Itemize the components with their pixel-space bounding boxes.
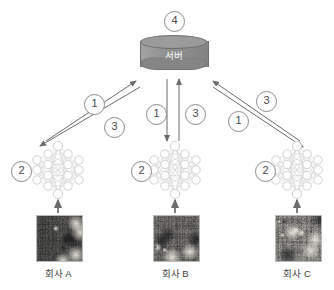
badge-left-step-3: 3 <box>104 117 125 138</box>
nn-node <box>64 150 72 158</box>
nn-node <box>192 176 200 184</box>
nn-node <box>53 189 62 198</box>
central-server[interactable]: 서버 <box>140 35 207 73</box>
nn-node <box>161 182 169 190</box>
nn-node <box>292 141 301 150</box>
badge-model-a-step-2: 2 <box>11 161 32 182</box>
company-c-image[interactable] <box>275 215 322 262</box>
photo-texture <box>154 216 199 261</box>
server-top-ellipse <box>140 35 207 49</box>
nn-node <box>303 171 311 179</box>
photo-texture <box>37 216 82 261</box>
nn-node <box>75 166 83 174</box>
nn-node <box>75 156 83 164</box>
federated-learning-diagram: 서버 4 1 3 1 3 3 1 2 2 2 회사 A 회사 B 회사 C <box>0 0 334 290</box>
nn-node <box>75 176 83 184</box>
nn-node <box>161 150 169 158</box>
nn-node <box>150 176 158 184</box>
nn-node <box>181 182 189 190</box>
company-a-image[interactable] <box>36 215 83 262</box>
nn-node <box>283 182 291 190</box>
badge-right-step-1: 1 <box>228 111 249 132</box>
nn-node <box>64 160 72 168</box>
nn-node <box>161 160 169 168</box>
nn-node <box>303 150 311 158</box>
nn-node <box>272 156 280 164</box>
nn-node <box>150 156 158 164</box>
nn-node <box>192 156 200 164</box>
nn-node <box>44 150 52 158</box>
nn-node <box>64 182 72 190</box>
company-b-label: 회사 B <box>130 266 220 280</box>
nn-node <box>181 171 189 179</box>
nn-node <box>283 171 291 179</box>
nn-node <box>33 176 41 184</box>
nn-node <box>181 160 189 168</box>
nn-node <box>33 156 41 164</box>
nn-node <box>283 150 291 158</box>
nn-node <box>283 160 291 168</box>
nn-node <box>192 166 200 174</box>
badge-mid-step-1: 1 <box>146 104 167 125</box>
badge-left-step-1: 1 <box>84 94 105 115</box>
photo-texture <box>276 216 321 261</box>
nn-node <box>33 166 41 174</box>
nn-node <box>64 171 72 179</box>
company-c-label: 회사 C <box>252 266 334 280</box>
nn-node <box>44 160 52 168</box>
company-b-image[interactable] <box>153 215 200 262</box>
badge-model-c-step-2: 2 <box>255 161 276 182</box>
nn-node <box>44 171 52 179</box>
badge-right-step-3: 3 <box>256 91 277 112</box>
nn-node <box>44 182 52 190</box>
nn-node <box>181 150 189 158</box>
server-label: 서버 <box>140 48 207 62</box>
badge-model-b-step-2: 2 <box>131 161 152 182</box>
nn-node <box>303 160 311 168</box>
nn-node <box>314 166 322 174</box>
nn-node <box>314 176 322 184</box>
nn-node <box>170 141 179 150</box>
nn-node <box>292 189 301 198</box>
nn-node <box>161 171 169 179</box>
nn-node <box>53 141 62 150</box>
nn-node <box>303 182 311 190</box>
nn-node <box>314 156 322 164</box>
nn-node <box>170 189 179 198</box>
company-a-label: 회사 A <box>13 266 103 280</box>
badge-mid-step-3: 3 <box>185 104 206 125</box>
badge-step-4: 4 <box>164 11 185 32</box>
